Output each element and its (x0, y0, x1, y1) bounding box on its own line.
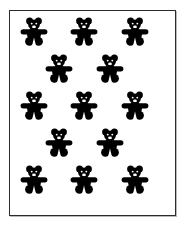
teddy-bear-icon (96, 128, 124, 157)
teddy-bear-icon (70, 17, 98, 46)
teddy-bear-icon (96, 54, 124, 83)
teddy-bear-icon (70, 165, 98, 194)
teddy-bear-icon (45, 128, 73, 157)
teddy-bear-icon (20, 91, 48, 120)
teddy-bear-icon (70, 91, 98, 120)
teddy-bear-icon (121, 165, 149, 194)
teddy-bear-icon (20, 17, 48, 46)
card-frame (9, 10, 176, 216)
teddy-bear-icon (45, 54, 73, 83)
teddy-bear-icon (121, 91, 149, 120)
teddy-bear-icon (20, 165, 48, 194)
bear-pattern-field (10, 11, 175, 215)
teddy-bear-icon (121, 17, 149, 46)
